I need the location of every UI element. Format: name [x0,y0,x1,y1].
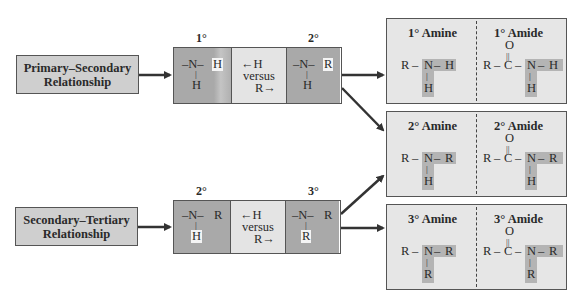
secondary-nitrogen-cell: –N– R | H [174,201,230,253]
right-substituent: R [324,209,332,222]
amine-r: R [401,245,409,258]
primary-result-box: 1° Amine 1° Amide R – N – H | H O || R –… [386,18,567,104]
amide-sub-right: R [549,152,557,165]
n-bond-text: –N– [293,58,315,71]
n-bond-text: –N– [182,58,204,71]
tertiary-nitrogen-cell: –N– R | R [286,201,339,253]
amine-r: R [401,152,409,165]
amine-title: 2° Amine [408,119,457,134]
highlighted-substituent: R [323,58,333,71]
relationship-label-line2: Relationship [43,227,110,241]
bond: – [412,152,418,165]
amide-sub-right: R [549,245,557,258]
bond: – [538,152,544,165]
right-substituent: R [214,209,222,222]
dashed-divider [476,114,477,194]
highlighted-substituent: R [301,230,311,243]
arrow-top-to-2-amine [342,88,383,130]
secondary-tertiary-relationship-box: Secondary–Tertiary Relationship [15,207,138,246]
amide-title: 3° Amide [494,212,543,227]
bond: – [515,59,521,72]
dashed-divider [476,21,477,101]
amine-sub-down: H [424,82,433,95]
amide-c: C [504,152,512,165]
highlighted-substituent: H [212,58,223,71]
amide-c: C [504,245,512,258]
amine-sub-down: R [424,268,432,281]
primary-secondary-comparison-box: –N– H | H ←H versus R→ –N– R | H [173,47,342,104]
bond: – [494,152,500,165]
down-substituent: H [303,79,312,92]
bond: – [494,59,500,72]
n-bond-text: –N– [182,209,204,222]
relationship-label-line1: Secondary–Tertiary [23,213,129,227]
amide-sub-right: H [549,59,558,72]
amine-sub-down: H [424,175,433,188]
r-right-arrow-text: R→ [254,233,275,246]
down-substituent: H [192,79,201,92]
amine-title: 3° Amine [408,212,457,227]
relationship-label-line1: Primary–Secondary [24,61,132,75]
versus-cell: ←H versus R→ [230,201,286,253]
tertiary-result-box: 3° Amine 3° Amide R – N – R | R O || R –… [386,204,567,290]
bond: – [434,59,440,72]
arrow-bottom-to-2-amine [341,176,383,214]
r-right-arrow-text: R→ [255,82,276,95]
amine-sub-right: R [445,245,453,258]
amide-sub-down: H [527,175,536,188]
primary-nitrogen-cell: –N– H | H [174,48,231,103]
secondary-nitrogen-cell: –N– R | H [287,48,340,103]
bond: – [412,59,418,72]
degree-label-2: 2° [196,184,207,199]
bond: – [434,245,440,258]
amide-c: C [504,59,512,72]
amine-r: R [401,59,409,72]
versus-cell: ←H versus R→ [231,48,287,103]
amide-r: R [483,245,491,258]
bond: – [515,245,521,258]
amine-sub-right: R [445,152,453,165]
bond: – [494,245,500,258]
highlighted-substituent: H [191,230,202,243]
n-bond-text: –N– [292,209,314,222]
relationship-label-line2: Relationship [44,75,111,89]
amide-sub-down: H [527,82,536,95]
amide-title: 1° Amide [494,26,543,41]
amine-title: 1° Amine [408,26,457,41]
bond: – [515,152,521,165]
amide-sub-down: R [527,268,535,281]
degree-label-3: 3° [308,184,319,199]
primary-secondary-relationship-box: Primary–Secondary Relationship [16,55,139,94]
degree-label-1: 1° [196,31,207,46]
bond: – [538,59,544,72]
amide-r: R [483,152,491,165]
bond: – [412,245,418,258]
dashed-divider [476,207,477,287]
secondary-tertiary-comparison-box: –N– R | H ←H versus R→ –N– R | R [173,200,341,254]
secondary-result-box: 2° Amine 2° Amide R – N – R | H O || R –… [386,111,567,197]
bond: – [538,245,544,258]
amide-title: 2° Amide [494,119,543,134]
amine-sub-right: H [445,59,454,72]
bond: – [434,152,440,165]
amide-r: R [483,59,491,72]
degree-label-2: 2° [308,31,319,46]
